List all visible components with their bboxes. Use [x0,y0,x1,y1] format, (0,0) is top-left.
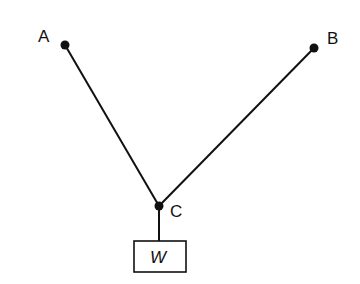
cable-ac [65,45,159,206]
point-b-label: B [327,29,338,48]
point-c-dot [155,202,164,211]
cable-bc [159,48,314,206]
point-a-dot [61,41,70,50]
weight-label: W [150,248,168,267]
point-b-dot [310,44,319,53]
point-c-label: C [170,202,182,221]
point-a-label: A [38,27,50,46]
force-diagram: A B C W [0,0,360,284]
